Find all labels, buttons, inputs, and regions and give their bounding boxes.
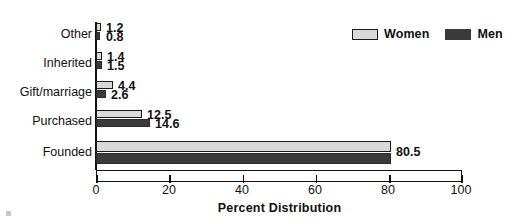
x-tick-100 <box>461 175 463 183</box>
bar-value-other-men: 0.8 <box>106 31 123 44</box>
bar-value-inherited-men: 1.5 <box>107 60 124 73</box>
category-axis-labels: Other Inherited Gift/marriage Purchased … <box>0 22 92 170</box>
bar-value-gift-marriage-men: 2.6 <box>111 89 128 102</box>
bar-founded-men <box>96 153 391 164</box>
bar-other-men <box>96 32 100 40</box>
bar-gift-marriage-men <box>96 90 106 98</box>
bar-chart: Women Men Other Inherited Gift/marriage … <box>0 0 511 223</box>
x-tick-label-40: 40 <box>235 184 249 197</box>
x-tick-label-60: 60 <box>308 184 322 197</box>
bar-purchased-women <box>96 110 142 118</box>
plot-area: 1.2 0.8 1.4 1.5 4.4 2.6 12.5 14.6 <box>96 22 462 170</box>
bar-founded-women <box>96 141 391 152</box>
scan-artifact <box>6 211 11 216</box>
x-tick-label-80: 80 <box>381 184 395 197</box>
bar-other-women <box>96 23 101 31</box>
x-tick-80 <box>389 175 391 183</box>
x-tick-label-0: 0 <box>93 184 100 197</box>
x-tick-label-20: 20 <box>162 184 176 197</box>
category-label-other: Other <box>0 28 92 41</box>
legend-label-men: Men <box>477 28 502 41</box>
bar-inherited-men <box>96 61 102 69</box>
category-label-inherited: Inherited <box>0 57 92 70</box>
x-tick-20 <box>169 175 171 183</box>
bar-inherited-women <box>96 52 102 60</box>
x-tick-60 <box>316 175 318 183</box>
bar-value-founded-women: 80.5 <box>396 146 420 159</box>
x-axis-title: Percent Distribution <box>0 201 511 215</box>
x-tick-40 <box>243 175 245 183</box>
value-axis-band <box>96 170 462 182</box>
x-tick-label-100: 100 <box>451 184 472 197</box>
x-tick-0 <box>96 175 98 183</box>
bar-value-purchased-men: 14.6 <box>155 118 179 131</box>
x-axis-title-text: Percent Distribution <box>218 201 341 215</box>
category-label-founded: Founded <box>0 146 92 159</box>
category-label-gift-marriage: Gift/marriage <box>0 86 92 99</box>
bar-purchased-men <box>96 119 150 127</box>
category-label-purchased: Purchased <box>0 115 92 128</box>
